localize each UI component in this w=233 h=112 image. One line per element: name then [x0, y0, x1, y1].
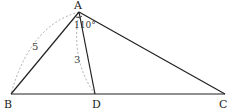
label-A: A [73, 0, 83, 12]
segment-AC [79, 12, 225, 94]
label-D: D [92, 98, 101, 111]
length-AB: 5 [32, 41, 38, 52]
length-AD: 3 [74, 54, 80, 65]
label-C: C [219, 98, 227, 111]
segment-AB [11, 12, 79, 94]
angle-BAC-label: 110° [74, 20, 96, 30]
angle-marker-A [76, 16, 82, 18]
triangle-diagram: A B D C 5 3 110° [0, 0, 233, 112]
label-B: B [4, 98, 12, 111]
